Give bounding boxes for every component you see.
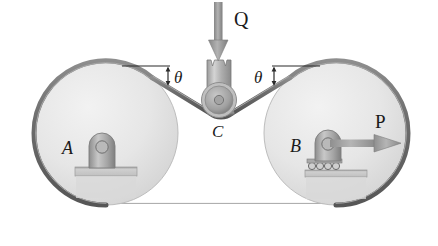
idler-axle (214, 95, 223, 104)
force-q-shaft (214, 2, 223, 42)
idler-c-label: C (212, 122, 224, 141)
pulley-b-label: B (290, 136, 301, 156)
theta-right-measure-arrow (272, 67, 277, 87)
force-p-label: P (375, 111, 386, 132)
theta-right-label: θ (254, 68, 262, 87)
belt-pulley-diagram: Q A B P C (0, 0, 438, 246)
pulley-a-label: A (61, 138, 74, 158)
support-a-pin-hole (96, 141, 108, 153)
theta-left-label: θ (174, 68, 182, 87)
force-q-arrow (209, 2, 229, 61)
force-q-head (209, 40, 229, 61)
support-a-shadow (76, 176, 136, 198)
force-p-shaft (330, 140, 376, 148)
figure-root: Q A B P C (0, 0, 438, 246)
belt-bottom-span (106, 203, 336, 205)
support-b-base-plate (305, 170, 367, 177)
idler-pulley-c (202, 60, 237, 118)
theta-left-measure-arrow (166, 67, 171, 87)
support-b-shadow (306, 177, 366, 199)
force-q-label: Q (234, 8, 249, 30)
